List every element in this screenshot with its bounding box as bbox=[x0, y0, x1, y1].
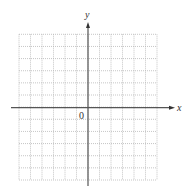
x-axis-arrow-icon bbox=[169, 106, 175, 110]
x-axis-label: x bbox=[176, 102, 182, 113]
y-axis-label: y bbox=[84, 9, 90, 20]
coordinate-plane: x y 0 bbox=[0, 0, 189, 190]
y-axis-arrow-icon bbox=[86, 22, 90, 28]
origin-label: 0 bbox=[79, 110, 84, 121]
